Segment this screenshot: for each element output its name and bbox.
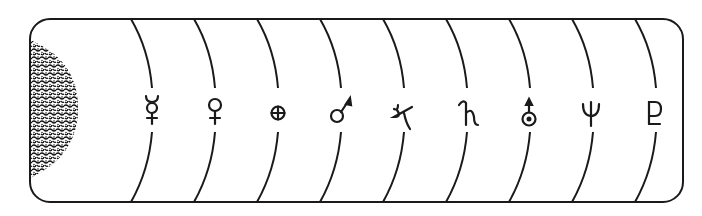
uranus-symbol-icon [523, 99, 536, 126]
orbit-pluto [635, 19, 656, 202]
mercury-symbol-icon [146, 96, 158, 124]
orbit-arcs [131, 19, 656, 202]
orbit-uranus [509, 19, 530, 202]
earth-symbol-icon [272, 107, 285, 120]
saturn-symbol-icon [459, 101, 478, 125]
neptune-symbol-icon [583, 102, 599, 126]
orbit-saturn [446, 19, 467, 202]
diagram-canvas [0, 0, 702, 216]
jupiter-symbol-icon [394, 105, 412, 129]
sun [30, 38, 80, 180]
solar-system-diagram: Solar system planets in order from the S… [0, 0, 702, 216]
mars-symbol-icon [331, 98, 351, 122]
pluto-symbol-icon [649, 102, 661, 124]
orbit-jupiter [383, 19, 404, 202]
orbit-earth [257, 19, 278, 202]
venus-symbol-icon [209, 99, 221, 124]
orbit-neptune [572, 19, 593, 202]
